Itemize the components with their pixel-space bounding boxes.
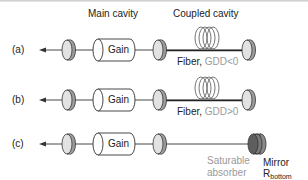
row-c-gain-label: Gain [108, 139, 129, 149]
row-b-label: (b) [12, 95, 24, 105]
coupled-cavity-header: Coupled cavity [173, 9, 239, 19]
row-a-gain-label: Gain [108, 45, 129, 55]
fiber-coil-icon [195, 77, 219, 99]
coupling-mirror-icon [153, 40, 167, 60]
end-mirror-icon [242, 40, 256, 60]
output-arrow-icon [39, 98, 46, 103]
output-mirror-icon [62, 90, 76, 110]
row-c-optics [39, 133, 266, 155]
fiber-coil-icon [195, 27, 219, 49]
row-c-label: (c) [12, 139, 24, 149]
saturable-absorber-label-line1: Saturable [207, 156, 250, 166]
row-b-fiber-caption: Fiber, GDD>0 [177, 107, 238, 117]
coupling-mirror-icon [153, 90, 167, 110]
fiber-label: Fiber, [177, 106, 202, 117]
diagram-canvas [0, 0, 308, 180]
saturable-absorber-label-line2: absorber [207, 168, 246, 178]
row-b-gain-label: Gain [108, 95, 129, 105]
mirror-reflectivity-label: Rbottom [263, 169, 292, 180]
output-mirror-icon [62, 40, 76, 60]
mirror-label: Mirror [263, 158, 289, 168]
row-a-label: (a) [12, 45, 24, 55]
reflectivity-subscript: bottom [270, 173, 291, 180]
output-arrow-icon [39, 142, 46, 147]
fiber-label: Fiber, [177, 56, 202, 67]
main-cavity-header: Main cavity [88, 9, 138, 19]
gdd-label: GDD<0 [205, 56, 239, 67]
end-mirror-icon [242, 90, 256, 110]
row-a-fiber-caption: Fiber, GDD<0 [177, 57, 238, 67]
saturable-absorber-mirror-icon [248, 134, 266, 154]
output-arrow-icon [39, 48, 46, 53]
gdd-label: GDD>0 [205, 106, 239, 117]
output-mirror-icon [62, 134, 76, 154]
intracavity-mirror-icon [153, 134, 167, 154]
